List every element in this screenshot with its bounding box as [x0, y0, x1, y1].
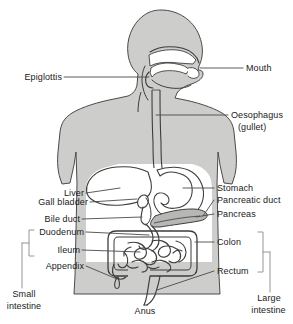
- label-bile-duct: Bile duct: [10, 214, 80, 225]
- label-pancreas: Pancreas: [217, 209, 256, 220]
- label-anus: Anus: [120, 306, 170, 317]
- label-rectum: Rectum: [217, 266, 249, 277]
- label-small-intestine-line2: intestine: [0, 301, 48, 312]
- label-gall-bladder: Gall bladder: [10, 197, 88, 208]
- gall-bladder-shape: [138, 195, 149, 208]
- label-pancreatic-duct: Pancreatic duct: [217, 195, 281, 206]
- label-colon: Colon: [217, 237, 241, 248]
- label-duodenum: Duodenum: [10, 227, 84, 238]
- label-small-intestine-line1: Small: [0, 289, 48, 300]
- label-ileum: Ileum: [10, 245, 80, 256]
- label-appendix: Appendix: [10, 261, 84, 272]
- label-stomach: Stomach: [217, 183, 253, 194]
- digestive-system-diagram: Epiglottis Mouth Oesophagus (gullet) Liv…: [0, 0, 293, 324]
- label-large-intestine-line1: Large: [246, 293, 292, 304]
- label-oesophagus: Oesophagus: [231, 110, 283, 121]
- anatomy-illustration: [0, 0, 293, 324]
- label-large-intestine-line2: intestine: [244, 305, 293, 316]
- label-epiglottis: Epiglottis: [0, 72, 62, 83]
- bracket-large-intestine: [258, 232, 263, 272]
- label-oesophagus-gullet: (gullet): [238, 122, 266, 133]
- label-mouth: Mouth: [246, 63, 272, 74]
